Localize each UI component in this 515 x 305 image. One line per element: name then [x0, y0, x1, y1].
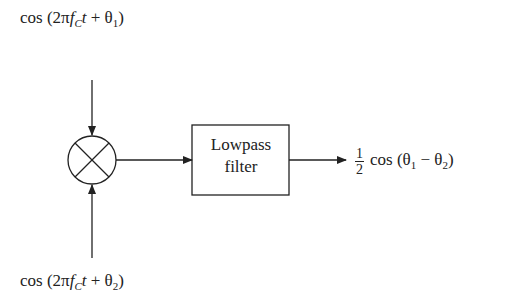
lowpass-filter-label: Lowpass filter [192, 134, 290, 178]
bottom-input-label: cos (2πfCt + θ2) [20, 271, 124, 292]
one-half-fraction: 12 [355, 146, 364, 177]
top-input-label: cos (2πfCt + θ1) [20, 8, 124, 29]
filter-label-line1: Lowpass [192, 134, 290, 156]
output-label: 12cos (θ1 − θ2) [355, 146, 454, 177]
filter-label-line2: filter [192, 156, 290, 178]
mixer-icon [68, 136, 116, 184]
